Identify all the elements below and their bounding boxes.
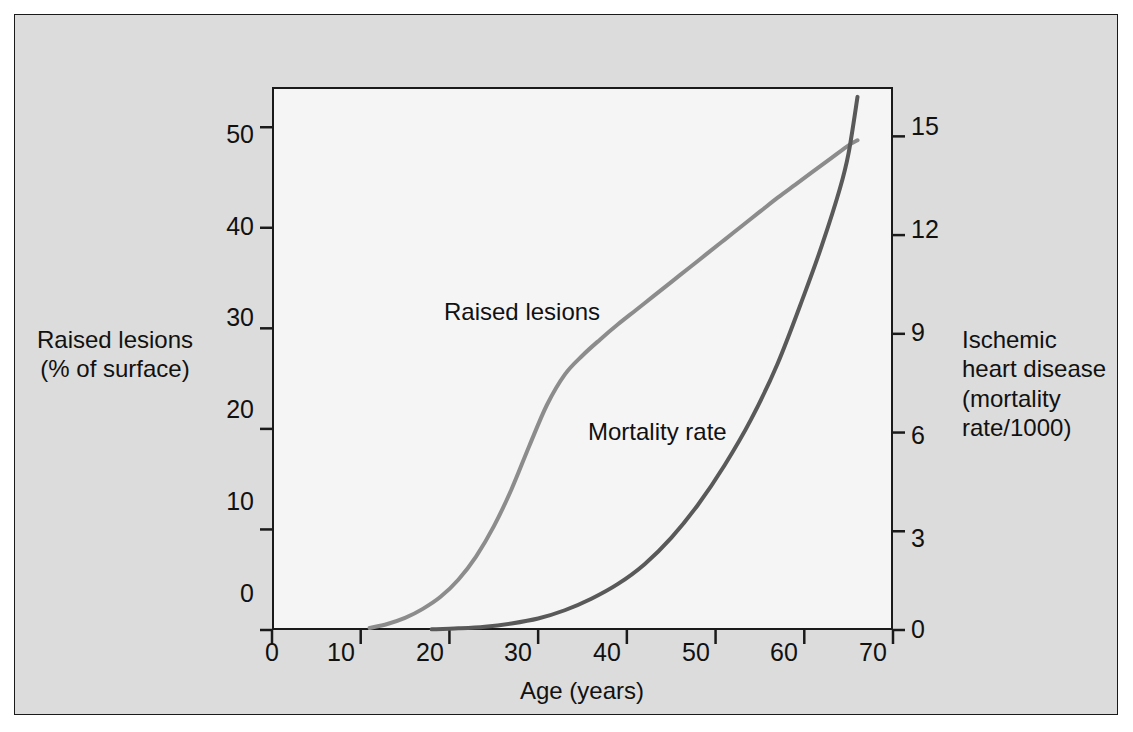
y-tick-label-30: 30 <box>194 305 254 330</box>
x-tick-label-10: 10 <box>321 640 361 665</box>
series-label-mortality-rate: Mortality rate <box>588 420 727 444</box>
y2-tick-label-3: 3 <box>911 526 971 551</box>
y-axis-title: Raised lesions (% of surface) <box>30 325 200 384</box>
y-tick-label-40: 40 <box>194 214 254 239</box>
y-tick-label-0: 0 <box>194 581 254 606</box>
y-tick-label-50: 50 <box>194 122 254 147</box>
y2-tick-label-12: 12 <box>911 217 971 242</box>
y-tick-label-10: 10 <box>194 489 254 514</box>
y2-axis-title: Ischemic heart disease (mortality rate/1… <box>962 325 1133 442</box>
x-tick-label-60: 60 <box>764 640 804 665</box>
y-tick-label-20: 20 <box>194 397 254 422</box>
x-tick-label-30: 30 <box>498 640 538 665</box>
x-tick-label-20: 20 <box>410 640 450 665</box>
plot-area-frame <box>272 87 893 630</box>
x-tick-label-70: 70 <box>853 640 893 665</box>
y2-tick-label-15: 15 <box>911 114 971 139</box>
y2-tick-label-0: 0 <box>911 617 971 642</box>
x-tick-label-0: 0 <box>252 640 292 665</box>
x-axis-title: Age (years) <box>482 676 682 705</box>
x-tick-label-50: 50 <box>676 640 716 665</box>
figure-panel: 50 40 30 20 10 0 15 12 9 6 3 0 0 10 20 3… <box>0 0 1133 732</box>
x-tick-label-40: 40 <box>587 640 627 665</box>
series-label-raised-lesions: Raised lesions <box>444 300 600 324</box>
